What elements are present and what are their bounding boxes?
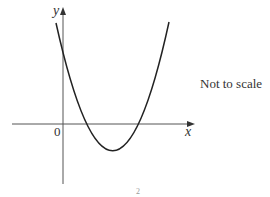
origin-label: 0 bbox=[54, 125, 61, 138]
parabola-curve bbox=[56, 22, 169, 151]
y-axis-arrow-icon bbox=[60, 7, 66, 15]
x-axis-label: x bbox=[185, 125, 191, 139]
not-to-scale-note: Not to scale bbox=[200, 77, 262, 90]
bottom-mark: 2 bbox=[136, 188, 140, 196]
graph-canvas bbox=[0, 0, 270, 197]
y-axis-label: y bbox=[53, 4, 59, 18]
